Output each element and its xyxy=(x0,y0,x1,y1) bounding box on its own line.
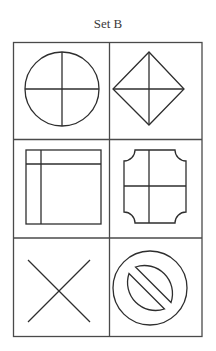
cell-2-diamond-with-cross-icon xyxy=(113,52,184,125)
cell-6-prohibition-sign-icon xyxy=(113,251,187,325)
outer-border xyxy=(14,43,203,337)
cell-3-square-with-offset-cross-icon xyxy=(26,150,101,224)
cell-5-x-cross-icon xyxy=(28,260,90,322)
grid-frame xyxy=(14,43,203,337)
cell-1-circle-with-cross-icon xyxy=(25,52,99,126)
cell-4-notched-rectangle-with-cross-icon xyxy=(124,150,186,223)
shape-grid-diagram xyxy=(0,0,216,351)
